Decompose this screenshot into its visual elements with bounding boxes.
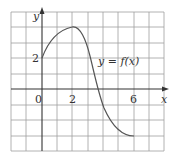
grid xyxy=(11,12,164,151)
x-axis-arrow-icon xyxy=(162,87,169,92)
tick-label-y-2: 2 xyxy=(32,52,39,65)
tick-label-origin: 0 xyxy=(35,93,42,106)
tick-label-x-6: 6 xyxy=(130,93,137,106)
y-axis-arrow-icon xyxy=(40,7,45,14)
y-axis-label: y xyxy=(32,10,40,23)
function-graph: y x 0 2 6 2 y = f(x) xyxy=(0,0,180,164)
tick-label-x-2: 2 xyxy=(69,93,76,106)
axes xyxy=(11,10,166,151)
x-axis-label: x xyxy=(161,93,168,106)
function-annotation: y = f(x) xyxy=(97,55,139,68)
